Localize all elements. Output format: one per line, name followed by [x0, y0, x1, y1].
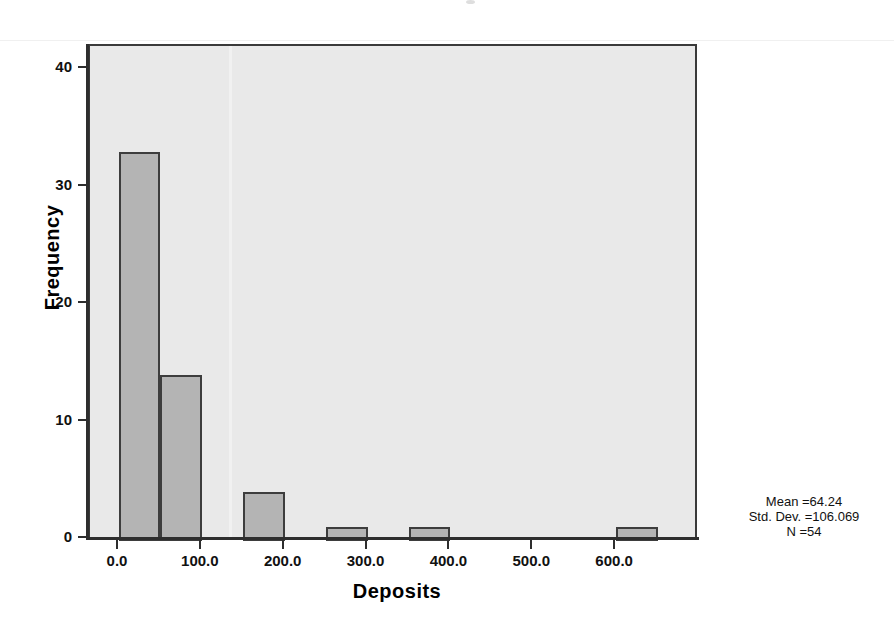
- x-axis-tick: [613, 540, 615, 549]
- x-axis-title: Deposits: [297, 580, 497, 603]
- scan-artifact-speck: [466, 0, 475, 4]
- x-axis-tick-label: 400.0: [413, 553, 483, 568]
- panel-scan-streak: [229, 46, 232, 537]
- x-axis-tick-label: 200.0: [248, 553, 318, 568]
- x-axis-tick: [365, 540, 367, 549]
- histogram-bar: [243, 492, 284, 541]
- x-axis-line: [88, 537, 699, 540]
- stat-std-dev: Std. Dev. =106.069: [724, 509, 884, 524]
- histogram-bar: [119, 152, 160, 541]
- y-axis-tick: [78, 301, 87, 303]
- y-axis-tick: [78, 419, 87, 421]
- x-axis-tick: [282, 540, 284, 549]
- x-axis-tick: [447, 540, 449, 549]
- y-axis-tick: [78, 536, 87, 538]
- y-axis-tick-label: 40: [32, 59, 72, 74]
- x-axis-tick-label: 0.0: [82, 553, 152, 568]
- plot-area: [88, 44, 697, 539]
- stat-mean: Mean =64.24: [724, 494, 884, 509]
- x-axis-tick-label: 100.0: [165, 553, 235, 568]
- x-axis-tick: [116, 540, 118, 549]
- x-axis-tick: [199, 540, 201, 549]
- y-axis-tick: [78, 184, 87, 186]
- x-axis-tick: [530, 540, 532, 549]
- y-axis-title: Frequency: [41, 158, 64, 358]
- x-axis-tick-label: 600.0: [579, 553, 649, 568]
- x-axis-tick-label: 500.0: [496, 553, 566, 568]
- y-axis-tick-label: 0: [32, 529, 72, 544]
- y-axis-tick-label: 10: [32, 412, 72, 427]
- stat-n: N =54: [724, 524, 884, 539]
- scan-artifact-line: [0, 40, 894, 41]
- histogram-figure: 010203040 0.0100.0200.0300.0400.0500.060…: [0, 0, 894, 630]
- y-axis-tick: [78, 66, 87, 68]
- histogram-bar: [160, 375, 201, 541]
- x-axis-tick-label: 300.0: [331, 553, 401, 568]
- y-axis-line: [86, 44, 89, 540]
- statistics-annotation: Mean =64.24 Std. Dev. =106.069 N =54: [724, 494, 884, 539]
